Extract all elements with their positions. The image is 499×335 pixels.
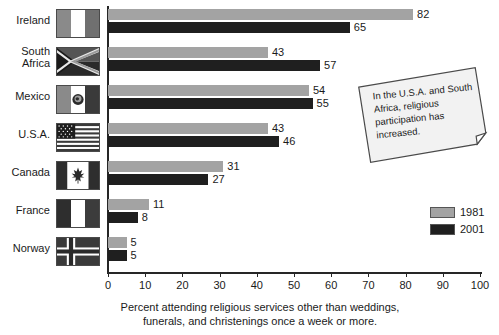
x-axis-tick-label: 70: [348, 279, 388, 291]
caption-line-1: Percent attending religious services oth…: [60, 300, 460, 314]
bar-value-label: 65: [354, 22, 366, 33]
bar-value-label: 82: [417, 9, 429, 20]
x-axis-tick: [294, 272, 295, 277]
bar-1981: [108, 161, 223, 172]
flag-canada-icon: [56, 161, 100, 190]
callout-note: In the U.S.A. and South Africa, religiou…: [356, 65, 490, 165]
flag-south-africa-icon: [56, 47, 100, 76]
legend-swatch: [430, 207, 455, 218]
chart-row: Norway55: [0, 234, 499, 272]
bar-2001: [108, 174, 208, 185]
x-axis-tick: [443, 272, 444, 277]
legend-label: 2001: [460, 223, 484, 236]
country-label: Canada: [0, 167, 50, 179]
bar-value-label: 57: [324, 60, 336, 71]
country-label-line: Mexico: [0, 91, 50, 103]
bar-value-label: 31: [227, 161, 239, 172]
x-axis-tick-label: 80: [386, 279, 426, 291]
flag-usa-icon: [56, 123, 100, 152]
country-label-line: France: [0, 205, 50, 217]
chart-row: Ireland8265: [0, 6, 499, 44]
bar-value-label: 43: [272, 123, 284, 134]
country-label-line: Canada: [0, 167, 50, 179]
x-axis-tick-label: 60: [311, 279, 351, 291]
x-axis-tick-label: 100: [460, 279, 499, 291]
country-label-line: Africa: [0, 58, 50, 70]
bar-value-label: 43: [272, 47, 284, 58]
axis-caption: Percent attending religious services oth…: [60, 300, 460, 328]
x-axis-tick: [331, 272, 332, 277]
x-axis-tick: [108, 272, 109, 277]
x-axis-tick: [368, 272, 369, 277]
flag-france-icon: [56, 199, 100, 228]
bar-2001: [108, 136, 279, 147]
country-label-line: South: [0, 46, 50, 58]
bar-value-label: 54: [313, 85, 325, 96]
x-axis-tick-label: 30: [200, 279, 240, 291]
x-axis-tick-label: 10: [125, 279, 165, 291]
country-label-line: U.S.A.: [0, 129, 50, 141]
flag-ireland-icon: [56, 9, 100, 38]
x-axis-tick-label: 90: [423, 279, 463, 291]
legend-swatch: [430, 224, 455, 235]
country-label: SouthAfrica: [0, 46, 50, 69]
x-axis-tick: [480, 272, 481, 277]
country-label-line: Ireland: [0, 15, 50, 27]
x-axis-tick-label: 20: [162, 279, 202, 291]
bar-2001: [108, 22, 350, 33]
bar-1981: [108, 199, 149, 210]
chart-row: Canada3127: [0, 158, 499, 196]
x-axis-tick-label: 50: [274, 279, 314, 291]
x-axis-tick-label: 0: [88, 279, 128, 291]
x-axis-tick: [257, 272, 258, 277]
bar-2001: [108, 98, 313, 109]
bar-value-label: 55: [317, 98, 329, 109]
callout-text: In the U.S.A. and South Africa, religiou…: [372, 80, 481, 142]
bar-value-label: 5: [131, 237, 137, 248]
legend-label: 1981: [460, 206, 484, 219]
country-label: U.S.A.: [0, 129, 50, 141]
flag-mexico-icon: [56, 85, 100, 114]
x-axis-tick: [145, 272, 146, 277]
x-axis-tick-label: 40: [237, 279, 277, 291]
flag-norway-icon: [56, 237, 100, 266]
bar-1981: [108, 237, 127, 248]
bar-2001: [108, 250, 127, 261]
bar-chart: Ireland8265SouthAfrica4357Mexico5455U.S.…: [0, 0, 499, 335]
bar-1981: [108, 47, 268, 58]
bar-1981: [108, 9, 413, 20]
country-label: Norway: [0, 243, 50, 255]
bar-1981: [108, 85, 309, 96]
bar-value-label: 46: [283, 136, 295, 147]
country-label: Mexico: [0, 91, 50, 103]
bar-value-label: 5: [131, 250, 137, 261]
bar-value-label: 27: [212, 174, 224, 185]
x-axis-tick: [182, 272, 183, 277]
caption-line-2: funerals, and christenings once a week o…: [60, 314, 460, 328]
country-label: Ireland: [0, 15, 50, 27]
country-label-line: Norway: [0, 243, 50, 255]
x-axis-tick: [406, 272, 407, 277]
bar-value-label: 8: [142, 212, 148, 223]
country-label: France: [0, 205, 50, 217]
bar-2001: [108, 60, 320, 71]
x-axis-tick: [220, 272, 221, 277]
chart-row: France118: [0, 196, 499, 234]
bar-value-label: 11: [153, 199, 164, 210]
bar-2001: [108, 212, 138, 223]
bar-1981: [108, 123, 268, 134]
